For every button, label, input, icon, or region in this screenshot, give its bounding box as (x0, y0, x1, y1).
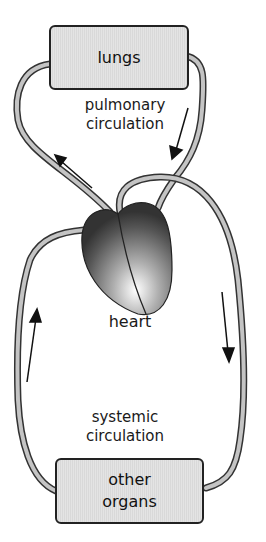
systemic-label-line2: circulation (70, 427, 180, 446)
lungs-label: lungs (97, 47, 140, 69)
heart-shape (82, 203, 172, 315)
lungs-box: lungs (49, 25, 189, 90)
pulmonary-circulation-label: pulmonary circulation (70, 96, 180, 134)
organs-label-line1: other (108, 469, 151, 491)
organs-label-line2: organs (102, 491, 157, 513)
systemic-circulation-label: systemic circulation (70, 408, 180, 446)
systemic-label-line1: systemic (70, 408, 180, 427)
pulmonary-label-line1: pulmonary (70, 96, 180, 115)
other-organs-box: other organs (55, 458, 204, 524)
arrow-systemic-up-icon (27, 309, 41, 382)
pulmonary-label-line2: circulation (70, 115, 180, 134)
arrow-systemic-down-icon (222, 292, 234, 362)
heart-label: heart (100, 312, 160, 331)
